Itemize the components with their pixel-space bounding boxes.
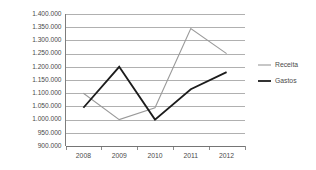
chart-canvas: 1.400.0001.350.0001.300.0001.250.0001.20… bbox=[0, 0, 316, 170]
x-axis-tick-labels: 20082009201020112012 bbox=[76, 152, 235, 159]
x-axis-tick-label: 2011 bbox=[183, 152, 198, 159]
legend-label-gastos: Gastos bbox=[275, 77, 297, 84]
x-axis-tick-label: 2008 bbox=[76, 152, 91, 159]
series-line-receita bbox=[83, 29, 226, 120]
x-axis-tick-label: 2010 bbox=[147, 152, 162, 159]
y-axis-tick-label: 1.100.000 bbox=[32, 89, 62, 96]
y-axis-tick-label: 1.400.000 bbox=[32, 10, 62, 17]
x-axis-tick-label: 2009 bbox=[112, 152, 127, 159]
y-axis-tick-label: 1.150.000 bbox=[32, 76, 62, 83]
gridlines bbox=[66, 15, 245, 147]
chart-legend: ReceitaGastos bbox=[258, 61, 298, 84]
y-axis-tick-label: 1.000.000 bbox=[32, 115, 62, 122]
legend-label-receita: Receita bbox=[275, 61, 298, 68]
y-axis-tick-label: 1.050.000 bbox=[32, 102, 62, 109]
x-axis-tick-label: 2012 bbox=[219, 152, 234, 159]
y-axis-tick-label: 1.350.000 bbox=[32, 23, 62, 30]
y-axis-tick-labels: 1.400.0001.350.0001.300.0001.250.0001.20… bbox=[32, 10, 62, 149]
y-axis-tick-label: 900.000 bbox=[38, 142, 62, 149]
line-chart: 1.400.0001.350.0001.300.0001.250.0001.20… bbox=[0, 0, 316, 170]
data-series bbox=[83, 29, 226, 120]
y-axis-tick-label: 1.250.000 bbox=[32, 49, 62, 56]
y-axis-tick-label: 1.200.000 bbox=[32, 63, 62, 70]
y-axis-tick-label: 1.300.000 bbox=[32, 36, 62, 43]
y-axis-tick-label: 950.000 bbox=[38, 129, 62, 136]
